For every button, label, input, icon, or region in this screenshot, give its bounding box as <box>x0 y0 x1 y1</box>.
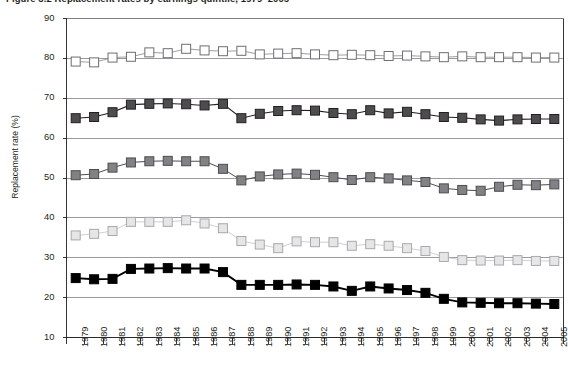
series-marker <box>71 274 80 283</box>
series-marker <box>476 298 485 307</box>
series-marker <box>513 256 522 265</box>
series-marker <box>145 217 154 226</box>
series-marker <box>255 240 264 249</box>
x-tick-label: 1997 <box>411 326 421 346</box>
series-marker <box>550 300 559 309</box>
replacement-rate-chart: Figure 3.2 Replacement rates by earnings… <box>0 0 568 372</box>
y-tick-label: 70 <box>29 92 55 102</box>
series-marker <box>531 181 540 190</box>
x-tick-label: 1995 <box>375 326 385 346</box>
series-marker <box>458 185 467 194</box>
y-tick-label: 10 <box>29 332 55 342</box>
series-marker <box>218 99 227 108</box>
series-marker <box>237 280 246 289</box>
series-marker <box>274 49 283 58</box>
series-marker <box>550 53 559 62</box>
series-marker <box>384 284 393 293</box>
series-marker <box>531 299 540 308</box>
series-marker <box>126 100 135 109</box>
series-marker <box>458 52 467 61</box>
series-marker <box>145 99 154 108</box>
x-tick-label: 1996 <box>393 326 403 346</box>
x-tick-label: 2003 <box>522 326 532 346</box>
series-marker <box>182 264 191 273</box>
series-marker <box>163 217 172 226</box>
series-marker <box>476 186 485 195</box>
series-marker <box>182 44 191 53</box>
series-marker <box>126 264 135 273</box>
series-marker <box>311 106 320 115</box>
series-marker <box>218 164 227 173</box>
series-marker <box>274 170 283 179</box>
series-marker <box>421 246 430 255</box>
x-tick-label: 2005 <box>559 326 568 346</box>
y-tick-label: 30 <box>29 252 55 262</box>
series-marker <box>292 237 301 246</box>
series-marker <box>384 109 393 118</box>
x-tick-label: 1983 <box>154 326 164 346</box>
series-marker <box>347 50 356 59</box>
y-tick-label: 60 <box>29 132 55 142</box>
series-marker <box>311 238 320 247</box>
series-marker <box>329 282 338 291</box>
y-tick-label: 50 <box>29 172 55 182</box>
series-marker <box>403 286 412 295</box>
x-tick-label: 1986 <box>209 326 219 346</box>
series-marker <box>458 113 467 122</box>
series-marker <box>255 109 264 118</box>
x-tick-label: 1979 <box>80 326 90 346</box>
data-series-layer <box>71 44 559 308</box>
y-tick-label: 90 <box>29 13 55 23</box>
series-marker <box>495 53 504 62</box>
data-series <box>71 156 559 195</box>
x-tick-label: 1985 <box>191 326 201 346</box>
series-marker <box>366 282 375 291</box>
series-marker <box>439 53 448 62</box>
series-marker <box>421 177 430 186</box>
series-marker <box>495 299 504 308</box>
series-marker <box>531 114 540 123</box>
series-marker <box>531 256 540 265</box>
series-marker <box>108 227 117 236</box>
x-tick-label: 1989 <box>264 326 274 346</box>
plot-area <box>0 0 568 372</box>
series-marker <box>274 244 283 253</box>
series-marker <box>108 163 117 172</box>
series-marker <box>366 51 375 60</box>
x-tick-label: 1998 <box>430 326 440 346</box>
series-marker <box>329 109 338 118</box>
series-marker <box>403 244 412 253</box>
x-tick-label: 1981 <box>117 326 127 346</box>
series-marker <box>384 51 393 60</box>
series-marker <box>145 157 154 166</box>
series-marker <box>513 115 522 124</box>
series-marker <box>200 46 209 55</box>
series-marker <box>439 184 448 193</box>
series-marker <box>274 107 283 116</box>
y-tick-label: 40 <box>29 212 55 222</box>
series-marker <box>403 107 412 116</box>
series-marker <box>237 114 246 123</box>
x-tick-label: 1991 <box>301 326 311 346</box>
series-marker <box>90 58 99 67</box>
x-tick-label: 2004 <box>540 326 550 346</box>
x-tick-label: 1982 <box>135 326 145 346</box>
series-marker <box>255 50 264 59</box>
series-marker <box>550 256 559 265</box>
series-marker <box>366 173 375 182</box>
series-marker <box>108 108 117 117</box>
x-tick-label: 1992 <box>319 326 329 346</box>
y-tick-label: 20 <box>29 292 55 302</box>
series-marker <box>550 114 559 123</box>
series-marker <box>126 52 135 61</box>
series-marker <box>200 264 209 273</box>
series-marker <box>347 286 356 295</box>
series-marker <box>108 53 117 62</box>
series-marker <box>182 100 191 109</box>
x-tick-label: 1984 <box>172 326 182 346</box>
series-marker <box>366 106 375 115</box>
series-marker <box>71 171 80 180</box>
x-tick-label: 1994 <box>356 326 366 346</box>
series-marker <box>163 99 172 108</box>
data-series <box>71 99 559 125</box>
